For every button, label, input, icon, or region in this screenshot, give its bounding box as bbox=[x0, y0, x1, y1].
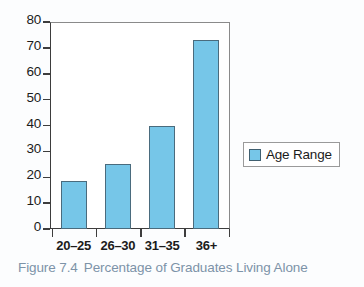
y-axis-tick-label: 0 bbox=[34, 219, 41, 234]
y-axis-tick-mark bbox=[43, 47, 50, 49]
y-axis-tick-mark bbox=[43, 99, 50, 101]
bar-slot bbox=[96, 22, 140, 229]
figure-container: 01020304050607080 20–2526–3031–3536+ Age… bbox=[0, 0, 364, 287]
y-axis-tick-mark bbox=[43, 125, 50, 127]
bar-slot bbox=[184, 22, 228, 229]
y-axis-tick-mark bbox=[43, 151, 50, 153]
y-axis-tick-label: 40 bbox=[26, 116, 41, 131]
legend-swatch-icon bbox=[249, 149, 261, 161]
x-axis-label: 31–35 bbox=[140, 238, 184, 253]
legend-label-age-range: Age Range bbox=[266, 147, 332, 162]
y-axis-tick-mark bbox=[43, 73, 50, 75]
y-axis-tick-label: 10 bbox=[26, 193, 41, 208]
x-axis-ticks bbox=[52, 229, 229, 237]
bar-slot bbox=[140, 22, 184, 229]
x-axis-tick-mark bbox=[96, 229, 98, 237]
bar-series-age-range bbox=[52, 22, 229, 229]
y-axis-tick-label: 20 bbox=[26, 167, 41, 182]
y-axis: 01020304050607080 bbox=[0, 22, 50, 229]
x-axis-label: 26–30 bbox=[96, 238, 140, 253]
y-axis-tick-label: 80 bbox=[26, 12, 41, 27]
bar-31–35 bbox=[149, 126, 175, 230]
y-axis-tick-label: 60 bbox=[26, 64, 41, 79]
figure-caption-text: Percentage of Graduates Living Alone bbox=[84, 260, 308, 275]
y-axis-tick-mark bbox=[43, 202, 50, 204]
figure-caption: Figure 7.4Percentage of Graduates Living… bbox=[18, 260, 348, 275]
y-axis-tick-mark bbox=[43, 228, 50, 230]
bar-26–30 bbox=[105, 164, 131, 229]
y-axis-tick-mark bbox=[43, 177, 50, 179]
x-axis-tick-mark bbox=[140, 229, 142, 237]
y-axis-tick-label: 50 bbox=[26, 90, 41, 105]
x-axis-label: 20–25 bbox=[52, 238, 96, 253]
bar-36+ bbox=[193, 40, 219, 229]
x-axis-label: 36+ bbox=[184, 238, 228, 253]
y-axis-tick-label: 70 bbox=[26, 38, 41, 53]
figure-caption-number: Figure 7.4 bbox=[18, 260, 78, 275]
x-axis-labels: 20–2526–3031–3536+ bbox=[52, 238, 229, 253]
x-axis-tick-mark bbox=[184, 229, 186, 237]
x-axis-tick-mark bbox=[229, 229, 231, 237]
y-axis-tick-label: 30 bbox=[26, 141, 41, 156]
x-axis-tick-mark bbox=[52, 229, 54, 237]
bar-slot bbox=[52, 22, 96, 229]
y-axis-tick-mark bbox=[43, 21, 50, 23]
bar-20–25 bbox=[61, 181, 87, 229]
chart-legend: Age Range bbox=[243, 142, 340, 167]
